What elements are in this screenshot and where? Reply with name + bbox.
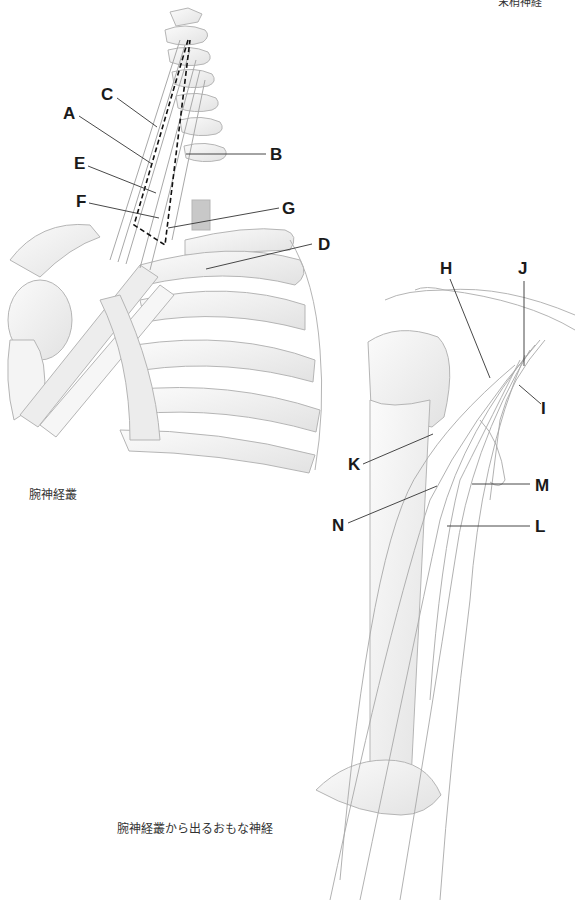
label-g: G <box>282 200 295 217</box>
label-d: D <box>318 236 330 253</box>
label-l: L <box>535 518 545 535</box>
label-f: F <box>76 193 86 210</box>
label-h: H <box>440 260 452 277</box>
label-e: E <box>74 155 85 172</box>
label-i: I <box>541 400 546 417</box>
caption-brachial-plexus: 腕神経叢 <box>29 489 77 501</box>
label-c: C <box>101 86 113 103</box>
label-j: J <box>518 260 527 277</box>
arm-nerve-strands <box>330 340 545 900</box>
label-m: M <box>535 477 549 494</box>
anatomy-illustration <box>0 0 577 905</box>
label-n: N <box>332 517 344 534</box>
label-a: A <box>63 105 75 122</box>
brachial-plexus-drawing <box>8 8 322 473</box>
anatomy-figure-page: 末梢神経 <box>0 0 577 905</box>
label-k: K <box>348 456 360 473</box>
label-b: B <box>270 146 282 163</box>
caption-main-nerves: 腕神経叢から出るおもな神経 <box>117 823 273 835</box>
